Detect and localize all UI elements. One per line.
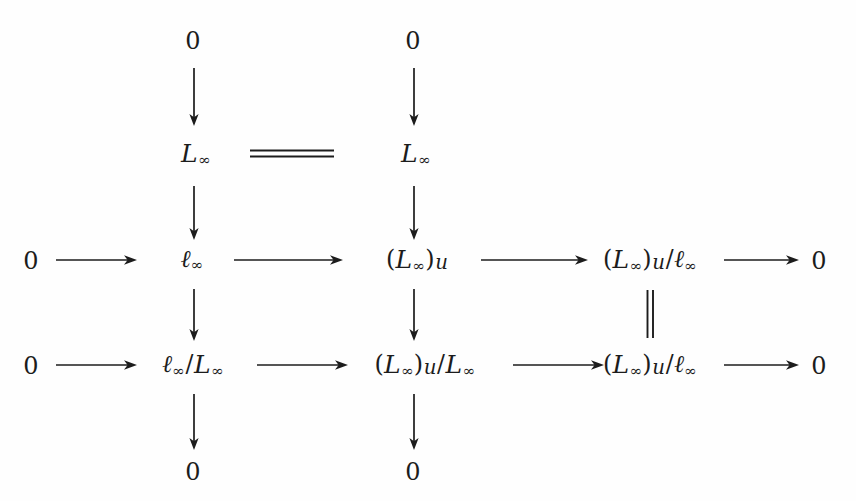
quotient-slash: / bbox=[437, 350, 446, 378]
script-ell-glyph: ℓ bbox=[181, 245, 191, 273]
u-modifier: u bbox=[435, 252, 448, 275]
node-row4-col3-quotient: (L∞)u/L∞ bbox=[375, 351, 476, 379]
horizontal-arrow-row3-seg4 bbox=[724, 253, 800, 267]
node-row1-col2-zero: 0 bbox=[185, 29, 200, 53]
script-ell-glyph: ℓ bbox=[674, 350, 684, 378]
infinity-subscript: ∞ bbox=[172, 362, 185, 380]
u-modifier: u bbox=[652, 252, 665, 275]
infinity-subscript: ∞ bbox=[630, 362, 643, 380]
vertical-arrow-col3-row2-row3 bbox=[406, 186, 422, 242]
infinity-subscript: ∞ bbox=[198, 151, 211, 169]
node-row3-col4-quotient: (L∞)u/ℓ∞ bbox=[603, 246, 697, 274]
horizontal-arrow-row4-seg1 bbox=[56, 358, 138, 372]
node-row3-col2-ell-infinity: ℓ∞ bbox=[181, 247, 204, 274]
close-paren: ) bbox=[642, 245, 651, 273]
infinity-subscript: ∞ bbox=[211, 362, 224, 380]
horizontal-arrow-row3-seg3 bbox=[481, 253, 589, 267]
vertical-arrow-col2-row3-row4 bbox=[186, 289, 202, 343]
equality-sign-row2-horizontal bbox=[250, 146, 334, 162]
u-modifier: u bbox=[652, 357, 665, 380]
node-row1-col3-zero: 0 bbox=[405, 29, 420, 53]
node-row4-col5-zero: 0 bbox=[811, 354, 826, 378]
script-L-glyph: L bbox=[401, 139, 418, 168]
commutative-diagram-canvas: 0 0 L∞ L∞ bbox=[0, 0, 856, 501]
script-L-glyph: L bbox=[613, 245, 630, 274]
node-row4-col1-zero: 0 bbox=[23, 354, 38, 378]
infinity-subscript: ∞ bbox=[684, 257, 697, 275]
node-row4-col2-quotient: ℓ∞/L∞ bbox=[162, 351, 224, 379]
close-paren: ) bbox=[425, 245, 434, 273]
script-L-glyph: L bbox=[446, 350, 463, 379]
infinity-subscript: ∞ bbox=[630, 257, 643, 275]
node-row5-col2-zero: 0 bbox=[185, 460, 200, 484]
node-row5-col3-zero: 0 bbox=[405, 460, 420, 484]
infinity-subscript: ∞ bbox=[191, 256, 204, 274]
script-ell-glyph: ℓ bbox=[674, 245, 684, 273]
u-modifier: u bbox=[423, 357, 436, 380]
script-L-glyph: L bbox=[395, 245, 412, 274]
horizontal-arrow-row4-seg4 bbox=[724, 358, 800, 372]
vertical-arrow-col2-row2-row3 bbox=[186, 186, 202, 242]
node-row4-col4-quotient: (L∞)u/ℓ∞ bbox=[603, 351, 697, 379]
infinity-subscript: ∞ bbox=[401, 362, 414, 380]
vertical-arrow-col2-row4-row5 bbox=[186, 394, 202, 452]
infinity-subscript: ∞ bbox=[463, 362, 476, 380]
script-L-glyph: L bbox=[384, 350, 401, 379]
horizontal-arrow-row3-seg1 bbox=[56, 253, 138, 267]
horizontal-arrow-row4-seg3 bbox=[513, 358, 605, 372]
infinity-subscript: ∞ bbox=[418, 151, 431, 169]
infinity-subscript: ∞ bbox=[413, 257, 426, 275]
vertical-arrow-col3-row3-row4 bbox=[406, 289, 422, 343]
horizontal-arrow-row4-seg2 bbox=[257, 358, 349, 372]
node-row2-col2-L-infinity: L∞ bbox=[181, 140, 211, 168]
infinity-subscript: ∞ bbox=[684, 362, 697, 380]
script-ell-glyph: ℓ bbox=[162, 350, 172, 378]
node-row3-col3-L-infinity-u: (L∞)u bbox=[386, 246, 448, 274]
close-paren: ) bbox=[414, 350, 423, 378]
script-L-glyph: L bbox=[181, 139, 198, 168]
vertical-arrow-col2-row1-row2 bbox=[186, 68, 202, 128]
close-paren: ) bbox=[642, 350, 651, 378]
quotient-slash: / bbox=[665, 245, 674, 273]
node-row2-col3-L-infinity: L∞ bbox=[401, 140, 431, 168]
vertical-arrow-col3-row1-row2 bbox=[406, 68, 422, 128]
quotient-slash: / bbox=[665, 350, 674, 378]
horizontal-arrow-row3-seg2 bbox=[234, 253, 344, 267]
vertical-arrow-col3-row4-row5 bbox=[406, 394, 422, 452]
node-row3-col5-zero: 0 bbox=[811, 249, 826, 273]
script-L-glyph: L bbox=[613, 350, 630, 379]
quotient-slash: / bbox=[185, 350, 194, 378]
equality-sign-col4-vertical bbox=[643, 290, 657, 338]
node-row3-col1-zero: 0 bbox=[23, 249, 38, 273]
script-L-glyph: L bbox=[194, 350, 211, 379]
